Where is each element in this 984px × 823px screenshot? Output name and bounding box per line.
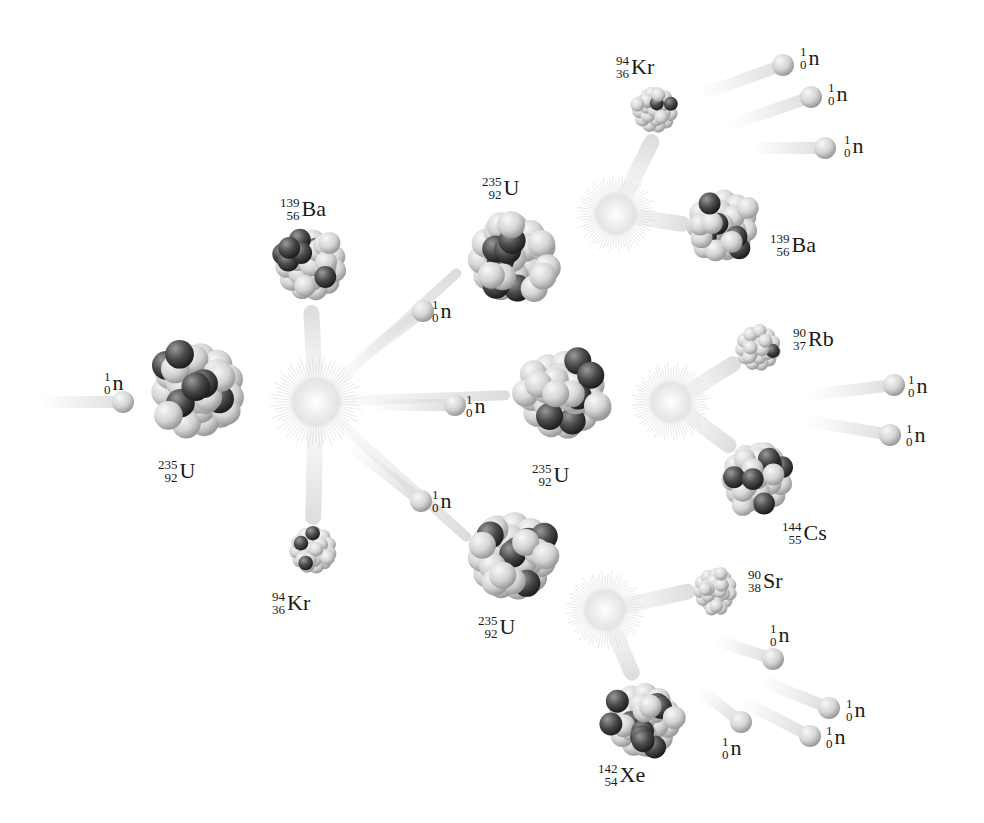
atomic-number: 36 xyxy=(616,67,629,80)
mass-atomic-numbers: 10 xyxy=(844,133,851,159)
proton xyxy=(664,97,678,111)
neutron xyxy=(762,464,784,486)
free-neutron xyxy=(883,374,905,396)
atomic-number: 92 xyxy=(165,471,178,484)
motion-trail xyxy=(698,59,785,100)
isotope-label-u235-initial: 23592U xyxy=(158,458,195,484)
free-neutron xyxy=(818,697,840,719)
free-neutron xyxy=(410,490,432,512)
fission-flash xyxy=(566,571,645,650)
mass-atomic-numbers: 9038 xyxy=(748,568,761,594)
element-symbol: U xyxy=(504,177,520,199)
neutron xyxy=(489,562,516,589)
neutron-label: 10n xyxy=(432,298,452,324)
atomic-number: 55 xyxy=(789,533,802,546)
atomic-number: 92 xyxy=(489,188,502,201)
element-symbol: Cs xyxy=(804,522,827,544)
neutron-label: 10n xyxy=(844,133,864,159)
element-symbol: U xyxy=(554,464,570,486)
mass-atomic-numbers: 14455 xyxy=(782,520,802,546)
neutron xyxy=(654,110,668,124)
neutron-label: 10n xyxy=(770,622,790,648)
mass-atomic-numbers: 10 xyxy=(104,370,111,396)
atomic-number: 54 xyxy=(605,775,618,788)
atomic-number: 0 xyxy=(828,94,835,107)
atomic-number: 0 xyxy=(906,435,913,448)
nucleus-u235-top xyxy=(468,211,561,302)
element-symbol: n xyxy=(915,424,926,446)
neutron xyxy=(663,706,686,729)
nucleus-u235-mid xyxy=(512,347,611,438)
neutron xyxy=(758,334,772,348)
atomic-number: 0 xyxy=(722,748,729,761)
mass-atomic-numbers: 23592 xyxy=(478,614,498,640)
free-neutron xyxy=(799,725,821,747)
proton xyxy=(294,536,309,551)
mass-atomic-numbers: 10 xyxy=(770,622,777,648)
nucleus-kr94-gen2 xyxy=(630,87,677,133)
nucleus-rb90 xyxy=(735,324,780,371)
element-symbol: Xe xyxy=(620,764,646,786)
nucleus-cs144 xyxy=(721,442,793,516)
isotope-label-kr94-gen1: 9436Kr xyxy=(272,590,310,616)
atomic-number: 37 xyxy=(793,339,806,352)
proton xyxy=(599,713,622,736)
atomic-number: 0 xyxy=(844,146,851,159)
mass-atomic-numbers: 9436 xyxy=(616,54,629,80)
neutron-label: 10n xyxy=(722,735,742,761)
mass-atomic-numbers: 10 xyxy=(846,697,853,723)
nucleus-u235-initial xyxy=(151,340,244,438)
element-symbol: n xyxy=(835,726,846,748)
atomic-number: 0 xyxy=(466,406,473,419)
neutron-label: 10n xyxy=(432,488,452,514)
neutron xyxy=(532,542,559,569)
atomic-number: 0 xyxy=(826,737,833,750)
neutron-label: 10n xyxy=(906,422,926,448)
mass-atomic-numbers: 10 xyxy=(432,488,439,514)
element-symbol: n xyxy=(113,372,124,394)
free-neutron xyxy=(412,300,434,322)
neutron xyxy=(737,197,759,219)
neutron-label: 10n xyxy=(828,81,848,107)
neutron-label: 10n xyxy=(846,697,866,723)
nucleus-sr90 xyxy=(693,567,737,615)
proton xyxy=(606,690,629,713)
element-symbol: Sr xyxy=(763,570,783,592)
neutron xyxy=(309,542,324,557)
motion-trail xyxy=(40,396,123,408)
neutron xyxy=(714,567,728,581)
proton xyxy=(314,266,336,288)
proton xyxy=(165,340,194,369)
mass-atomic-numbers: 10 xyxy=(908,373,915,399)
atomic-number: 0 xyxy=(800,58,807,71)
neutron xyxy=(542,380,569,407)
neutron-label: 10n xyxy=(826,724,846,750)
mass-atomic-numbers: 10 xyxy=(828,81,835,107)
atomic-number: 36 xyxy=(272,603,285,616)
isotope-label-ba139-gen2: 13956Ba xyxy=(770,232,816,258)
element-symbol: n xyxy=(809,47,820,69)
free-neutron xyxy=(772,54,794,76)
mass-atomic-numbers: 23592 xyxy=(532,462,552,488)
free-neutron xyxy=(444,394,466,416)
motion-trail xyxy=(804,414,891,441)
mass-atomic-numbers: 14254 xyxy=(598,762,618,788)
mass-atomic-numbers: 13956 xyxy=(280,196,300,222)
free-neutron xyxy=(730,711,752,733)
neutron-label: 10n xyxy=(104,370,124,396)
atomic-number: 56 xyxy=(777,245,790,258)
neutron xyxy=(469,532,496,559)
mass-atomic-numbers: 10 xyxy=(466,393,473,419)
isotope-label-ba139-gen1: 13956Ba xyxy=(280,196,326,222)
proton xyxy=(298,556,313,571)
nucleus-u235-bottom xyxy=(468,512,559,600)
mass-atomic-numbers: 9436 xyxy=(272,590,285,616)
element-symbol: n xyxy=(441,490,452,512)
neutron xyxy=(498,211,525,238)
proton xyxy=(753,493,775,515)
nucleus-ba139-gen2 xyxy=(686,189,758,261)
free-neutron xyxy=(814,137,836,159)
isotope-label-cs144: 14455Cs xyxy=(782,520,827,546)
neutron-label: 10n xyxy=(800,45,820,71)
atomic-number: 38 xyxy=(748,581,761,594)
